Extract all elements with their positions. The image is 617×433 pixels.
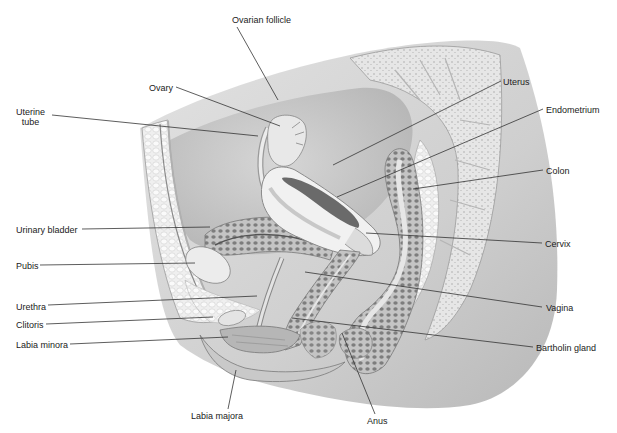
leader-line-labia-majora	[228, 370, 236, 409]
label-bartholin-gland: Bartholin gland	[536, 343, 596, 353]
label-uterus: Uterus	[503, 77, 530, 87]
label-anus: Anus	[367, 416, 388, 426]
label-urinary-bladder: Urinary bladder	[16, 225, 78, 235]
label-endometrium: Endometrium	[546, 105, 600, 115]
label-cervix: Cervix	[545, 239, 571, 249]
label-colon: Colon	[546, 166, 570, 176]
label-pubis: Pubis	[16, 261, 39, 271]
label-labia-minora: Labia minora	[16, 340, 68, 350]
label-labia-majora: Labia majora	[191, 411, 243, 421]
label-vagina: Vagina	[546, 303, 573, 313]
anatomy-diagram: Ovarian follicle Ovary Uterine tube Uter…	[0, 0, 617, 433]
label-ovary: Ovary	[149, 83, 173, 93]
label-ovarian-follicle: Ovarian follicle	[232, 15, 291, 25]
label-uterine-tube: Uterine tube	[16, 107, 45, 127]
label-clitoris: Clitoris	[16, 320, 44, 330]
label-urethra: Urethra	[16, 302, 46, 312]
illustration	[0, 0, 617, 433]
